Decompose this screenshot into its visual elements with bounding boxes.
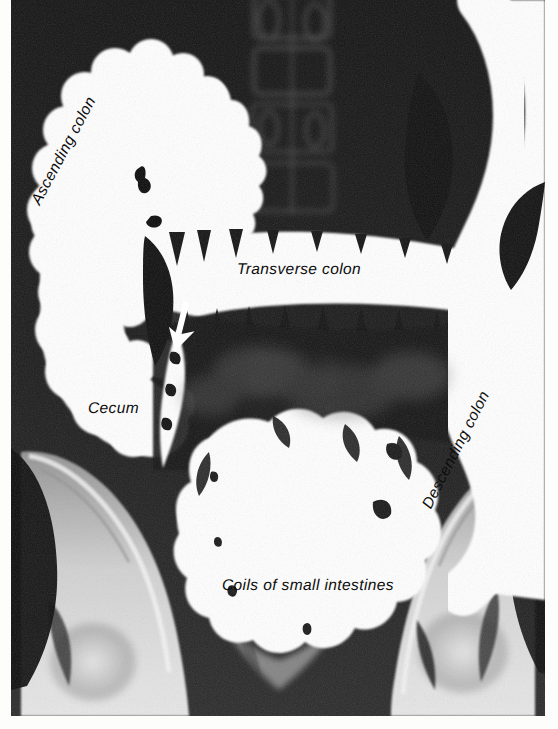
label-transverse-colon: Transverse colon [237, 262, 361, 278]
ileocecal-pointer-arrow [160, 300, 204, 356]
label-cecum: Cecum [88, 401, 139, 417]
radiograph-figure: Ascending colon Transverse colon Cecum D… [0, 0, 558, 729]
label-coils-small-intestines: Coils of small intestines [222, 578, 394, 594]
